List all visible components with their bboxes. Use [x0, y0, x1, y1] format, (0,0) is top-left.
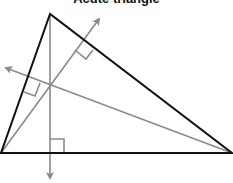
right-angle-mark-right-side [75, 50, 93, 59]
altitude-from-right [6, 68, 232, 153]
triangle [1, 14, 232, 153]
right-angle-mark-left-side [24, 83, 40, 96]
orthocenter-diagram [0, 0, 233, 183]
right-angle-mark-bottom [50, 139, 64, 153]
